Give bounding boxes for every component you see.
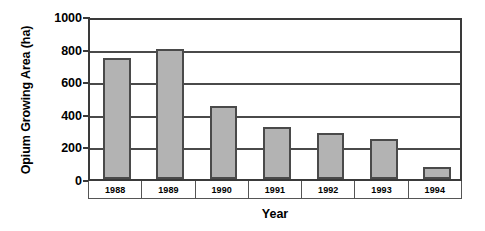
bar-1989 <box>156 49 184 179</box>
plot-area <box>88 18 462 181</box>
x-axis-title: Year <box>88 207 462 221</box>
bars-layer <box>90 20 460 179</box>
bar-1991 <box>263 127 291 179</box>
x-axis-category-label: 1988 <box>89 181 142 198</box>
bar-1988 <box>103 58 131 179</box>
y-axis-tick-label: 200 <box>38 142 82 155</box>
x-axis-category-label: 1991 <box>249 181 302 198</box>
x-axis-category-label: 1992 <box>302 181 355 198</box>
y-axis-title-text: Opium Growing Area (ha) <box>19 25 33 174</box>
bar-1993 <box>370 139 398 179</box>
y-axis-tick-labels: 02004006008001000 <box>38 0 82 231</box>
x-axis-category-label: 1989 <box>142 181 195 198</box>
y-axis-tick-label: 800 <box>38 44 82 57</box>
bar-1990 <box>210 106 238 179</box>
y-axis-tick-label: 600 <box>38 77 82 90</box>
bar-chart-figure: Opium Growing Area (ha) 0200400600800100… <box>0 0 485 231</box>
bar-1992 <box>317 133 345 179</box>
x-axis-category-label: 1993 <box>355 181 408 198</box>
y-axis-tick-label: 400 <box>38 110 82 123</box>
x-axis-category-row: 1988198919901991199219931994 <box>88 181 462 199</box>
x-axis-category-label: 1990 <box>196 181 249 198</box>
y-axis-title: Opium Growing Area (ha) <box>16 18 36 181</box>
y-axis-tick-label: 1000 <box>38 12 82 25</box>
x-axis-category-label: 1994 <box>409 181 461 198</box>
y-axis-tick-label: 0 <box>38 175 82 188</box>
bar-1994 <box>423 167 451 179</box>
